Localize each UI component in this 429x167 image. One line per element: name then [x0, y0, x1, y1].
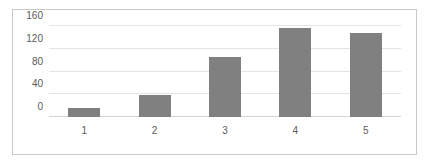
x-axis-tick-label: 3 — [222, 126, 228, 136]
bar[interactable] — [209, 57, 241, 117]
x-axis-tick-label: 5 — [363, 126, 369, 136]
x-axis-tick-label: 2 — [152, 126, 158, 136]
y-axis-tick-label: 40 — [9, 79, 43, 89]
bar-slot: 5 — [331, 26, 401, 117]
x-axis-tick-label: 1 — [81, 126, 87, 136]
bar[interactable] — [350, 33, 382, 117]
y-axis-tick-label: 80 — [9, 57, 43, 67]
y-axis-tick-label: 160 — [9, 11, 43, 21]
bar-slot: 3 — [190, 26, 260, 117]
chart-figure: 04080120160 12345 — [12, 9, 417, 155]
y-axis-tick-label: 0 — [9, 102, 43, 112]
bars-layer: 12345 — [49, 26, 401, 117]
plot-area: 04080120160 12345 — [49, 26, 401, 117]
bar-slot: 4 — [260, 26, 330, 117]
bar-slot: 2 — [119, 26, 189, 117]
y-axis-tick-label: 120 — [9, 34, 43, 44]
bar-slot: 1 — [49, 26, 119, 117]
bar[interactable] — [68, 108, 100, 117]
bar[interactable] — [279, 28, 311, 117]
bar[interactable] — [139, 95, 171, 117]
x-axis-tick-label: 4 — [293, 126, 299, 136]
